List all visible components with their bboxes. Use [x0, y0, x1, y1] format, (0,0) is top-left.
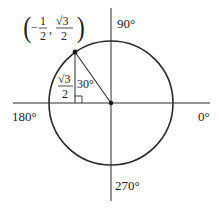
- label-0-degrees: 0°: [198, 109, 210, 124]
- x-denominator: 2: [40, 29, 46, 43]
- angle-label-30-degrees: 30°: [77, 77, 94, 91]
- x-sign: −: [31, 20, 38, 34]
- x-numerator: 1: [40, 14, 46, 28]
- label-180-degrees: 180°: [12, 109, 37, 124]
- label-270-degrees: 270°: [115, 178, 140, 193]
- label-90-degrees: 90°: [117, 16, 135, 31]
- origin-marker: [109, 101, 113, 105]
- unit-circle-diagram: 0° 90° 180° 270° ( − 1 2 , √3 2 ) √3 2 3…: [0, 0, 219, 210]
- comma: ,: [49, 22, 52, 36]
- paren-close: ): [77, 10, 85, 43]
- y-denominator: 2: [61, 29, 67, 43]
- point-marker: [73, 50, 78, 55]
- side-numerator: √3: [58, 72, 71, 86]
- point-coordinate-label: ( − 1 2 , √3 2 ): [23, 10, 85, 43]
- paren-open: (: [23, 10, 31, 43]
- side-length-label: √3 2: [58, 72, 73, 101]
- right-angle-marker: [75, 96, 82, 103]
- y-numerator: √3: [56, 14, 69, 28]
- side-denominator: 2: [62, 87, 68, 101]
